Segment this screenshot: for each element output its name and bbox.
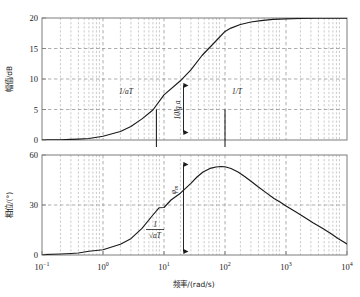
magnitude-ytick-5: 5: [34, 105, 38, 115]
center-freq-denominator: √aT: [149, 231, 162, 240]
magnitude-major-grid-h: [42, 49, 347, 110]
x-axis-label: 频率/(rad/s): [173, 279, 214, 289]
xtick-1e2: 102: [219, 261, 231, 272]
magnitude-panel: 20 15 10 5 0 幅值/dB 1/aT 1/T 10lg a: [4, 13, 347, 147]
xtick-1e-1: 10−1: [35, 261, 50, 272]
annotation-10lga: 10lg a: [173, 100, 182, 119]
xtick-1e0: 100: [97, 261, 109, 272]
magnitude-ytick-10: 10: [30, 74, 39, 84]
annotation-1-over-aT: 1/aT: [119, 87, 134, 96]
magnitude-y-axis-label: 幅值/dB: [4, 66, 14, 92]
center-freq-numerator: 1: [153, 220, 157, 229]
magnitude-y-ticks: [42, 18, 46, 140]
magnitude-ytick-0: 0: [34, 135, 38, 145]
x-axis: 10−1 100 101 102 103 104 频率/(rad/s): [35, 251, 353, 289]
bode-plot-figure: 20 15 10 5 0 幅值/dB 1/aT 1/T 10lg a: [0, 0, 360, 297]
phase-ytick-0: 0: [34, 250, 38, 260]
magnitude-ytick-20: 20: [30, 13, 39, 23]
phase-ytick-30: 30: [30, 200, 39, 210]
phase-panel: φm 1 √aT 60 30 0 相位/(°): [4, 150, 347, 260]
phase-ytick-60: 60: [30, 150, 39, 160]
annotation-phi-m: φm: [169, 185, 179, 194]
phase-curve: [42, 167, 347, 255]
svg-text:φm: φm: [169, 185, 179, 194]
phase-y-axis-label: 相位/(°): [4, 192, 14, 218]
annotation-1-over-T: 1/T: [232, 87, 243, 96]
magnitude-ytick-15: 15: [30, 44, 39, 54]
xtick-1e4: 104: [341, 261, 353, 272]
xtick-1e1: 101: [158, 261, 170, 272]
phase-y-ticks: [42, 155, 46, 255]
phi-subscript: m: [173, 185, 179, 190]
xtick-1e3: 103: [280, 261, 292, 272]
